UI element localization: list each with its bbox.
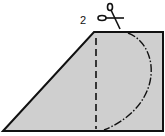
paper-trapezoid [3,32,163,131]
folding-diagram: 2 [0,0,165,136]
scissors-icon [98,4,124,30]
step-number: 2 [80,14,86,26]
